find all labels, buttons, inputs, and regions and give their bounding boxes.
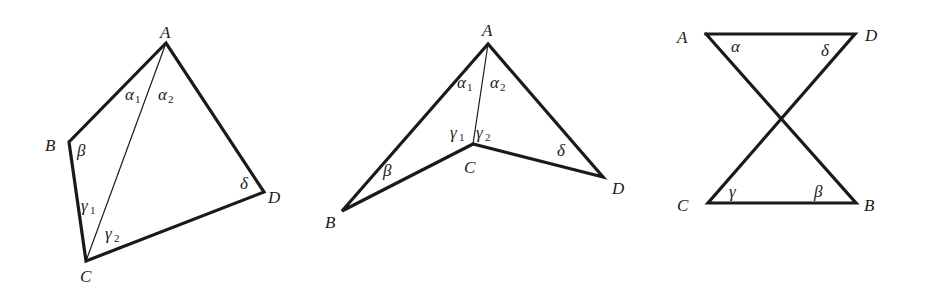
svg-text:γ: γ	[476, 123, 484, 142]
svg-text:2: 2	[500, 81, 506, 93]
quadrilateral-outline	[342, 44, 603, 211]
angle-label-delta: δ	[821, 41, 830, 60]
svg-text:γ: γ	[450, 123, 458, 142]
angle-label-beta: β	[76, 141, 86, 160]
angle-label-gamma2: γ 2	[476, 123, 491, 143]
vertex-label-b: B	[325, 213, 336, 232]
quadrilateral-outline	[706, 34, 856, 203]
angle-label-delta: δ	[240, 174, 249, 193]
svg-text:2: 2	[114, 232, 120, 244]
figure-crossed-quadrilateral: A D C B α δ γ β	[676, 26, 878, 215]
svg-text:γ: γ	[105, 224, 113, 243]
svg-text:α: α	[457, 73, 467, 92]
vertex-label-d: D	[611, 179, 625, 198]
svg-text:1: 1	[459, 131, 465, 143]
quadrilateral-diagrams: A B C D α 1 α 2 β γ 1 γ 2 δ A B C D α	[0, 0, 928, 290]
svg-text:1: 1	[135, 93, 141, 105]
vertex-label-c: C	[80, 267, 92, 286]
angle-label-gamma: γ	[729, 182, 737, 201]
svg-text:α: α	[490, 73, 500, 92]
angle-label-gamma2: γ 2	[105, 224, 120, 244]
angle-label-alpha1: α 1	[125, 85, 141, 105]
angle-label-alpha: α	[731, 37, 741, 56]
angle-label-delta: δ	[557, 141, 566, 160]
angle-label-alpha2: α 2	[158, 85, 174, 105]
vertex-label-c: C	[464, 158, 476, 177]
vertex-label-b: B	[864, 196, 875, 215]
vertex-label-c: C	[677, 196, 689, 215]
diagonal-ac	[86, 43, 166, 261]
svg-text:1: 1	[467, 81, 473, 93]
figure-concave-quadrilateral: A B C D α 1 α 2 γ 1 γ 2 β δ	[325, 21, 625, 232]
svg-text:2: 2	[168, 93, 174, 105]
vertex-label-a: A	[159, 23, 171, 42]
angle-label-beta: β	[813, 182, 823, 201]
angle-label-alpha2: α 2	[490, 73, 506, 93]
vertex-label-b: B	[45, 136, 56, 155]
svg-text:α: α	[125, 85, 135, 104]
svg-text:2: 2	[485, 131, 491, 143]
angle-label-gamma1: γ 1	[81, 196, 96, 216]
angle-label-beta: β	[382, 161, 392, 180]
vertex-label-d: D	[864, 26, 878, 45]
vertex-label-a: A	[481, 21, 493, 40]
svg-text:1: 1	[90, 204, 96, 216]
figure-convex-quadrilateral: A B C D α 1 α 2 β γ 1 γ 2 δ	[45, 23, 281, 286]
svg-text:γ: γ	[81, 196, 89, 215]
angle-label-gamma1: γ 1	[450, 123, 465, 143]
angle-label-alpha1: α 1	[457, 73, 473, 93]
vertex-label-d: D	[267, 188, 281, 207]
svg-text:α: α	[158, 85, 168, 104]
vertex-label-a: A	[676, 28, 688, 47]
